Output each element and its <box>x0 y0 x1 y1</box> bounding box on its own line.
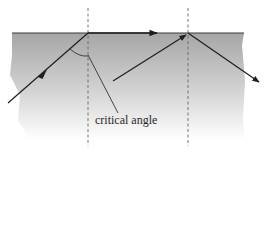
critical-angle-label: critical angle <box>95 113 157 128</box>
